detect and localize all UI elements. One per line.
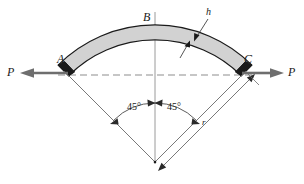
radial-line-right: [155, 71, 246, 162]
label-force-right: P: [288, 65, 295, 80]
angle-arc-right-head1: [155, 99, 163, 106]
label-radius-r: r: [202, 117, 206, 127]
arch-diagram-figure: P P A B C h r 45° 45°: [0, 0, 304, 184]
radial-line-left: [64, 71, 155, 162]
angle-arc-left-head2: [147, 99, 155, 106]
label-angle-left: 45°: [127, 101, 141, 112]
diagram-canvas: [0, 0, 304, 184]
label-angle-right: 45°: [167, 101, 181, 112]
label-point-a: A: [57, 52, 64, 67]
radius-dimension-line: [161, 77, 252, 168]
label-point-b: B: [143, 10, 150, 25]
label-thickness-h: h: [206, 6, 211, 17]
force-right-arrowhead: [270, 68, 284, 78]
force-arrow-right: [242, 68, 284, 78]
force-left-arrowhead: [20, 68, 34, 78]
center-of-curvature-point: [154, 161, 157, 164]
radius-dimension: [158, 73, 259, 171]
label-point-c: C: [244, 52, 252, 67]
force-arrow-left: [20, 68, 68, 78]
label-force-left: P: [7, 65, 14, 80]
